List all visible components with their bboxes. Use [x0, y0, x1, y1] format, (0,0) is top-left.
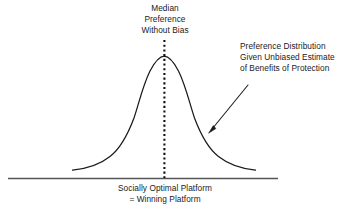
preference-distribution-figure: Median Preference Without Bias Preferenc…: [0, 0, 354, 212]
median-preference-label: Median Preference Without Bias: [141, 3, 188, 35]
preference-distribution-label: Preference Distribution Given Unbiased E…: [240, 41, 335, 73]
distribution-callout-arrow: [209, 85, 248, 133]
callout-arrow-head: [209, 126, 216, 134]
socially-optimal-platform-label: Socially Optimal Platform = Winning Plat…: [118, 183, 212, 205]
callout-arrow-shaft: [213, 85, 249, 129]
